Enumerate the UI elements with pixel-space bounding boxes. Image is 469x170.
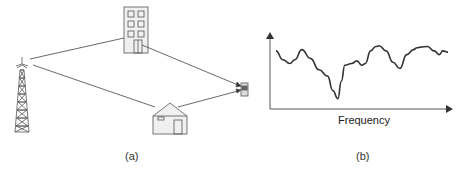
caption-b: (b)	[356, 150, 369, 162]
x-axis-label: Frequency	[338, 114, 390, 126]
y-axis-arrow	[266, 32, 274, 39]
house-icon	[153, 103, 187, 134]
mobile-phone-icon	[241, 83, 248, 96]
fading-curve	[276, 46, 448, 99]
caption-a: (a)	[125, 150, 138, 162]
panel-a	[15, 7, 248, 134]
x-axis-arrow	[446, 105, 453, 113]
cell-tower-icon	[15, 57, 29, 132]
panel-b	[266, 32, 453, 113]
figure-canvas	[0, 0, 469, 170]
